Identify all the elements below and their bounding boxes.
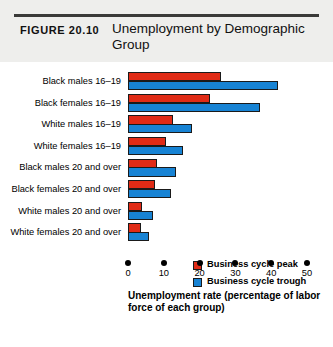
bar-row: Black females 20 and over (0, 179, 333, 201)
figure-header: FIGURE 20.10 Unemployment by Demographic… (0, 0, 333, 62)
bar-business-cycle-trough (128, 189, 171, 198)
category-label: Black females 20 and over (0, 179, 121, 201)
category-label: White males 16–19 (0, 114, 121, 136)
tick-dot-icon (268, 260, 274, 266)
category-label: Black males 16–19 (0, 71, 121, 93)
figure-card: FIGURE 20.10 Unemployment by Demographic… (0, 0, 333, 347)
bar-row: White females 16–19 (0, 136, 333, 158)
bar-business-cycle-peak (128, 223, 141, 232)
bar-business-cycle-peak (128, 115, 173, 124)
bar-business-cycle-peak (128, 202, 142, 211)
tick-dot-icon (197, 260, 203, 266)
bar-row: Black males 16–19 (0, 71, 333, 93)
bar-business-cycle-trough (128, 167, 176, 176)
category-label: Black females 16–19 (0, 93, 121, 115)
x-axis-tick-label: 0 (116, 268, 140, 278)
bar-row: White males 16–19 (0, 114, 333, 136)
tick-dot-icon (161, 260, 167, 266)
bar-business-cycle-peak (128, 159, 157, 168)
bar-business-cycle-trough (128, 103, 260, 112)
x-axis-caption: Unemployment rate (percentage of labor f… (128, 290, 328, 313)
tick-dot-icon (232, 260, 238, 266)
category-label: White females 16–19 (0, 136, 121, 158)
tick-dot-icon (125, 260, 131, 266)
bar-business-cycle-trough (128, 211, 153, 220)
bar-row: Black females 16–19 (0, 93, 333, 115)
bar-row: Black males 20 and over (0, 157, 333, 179)
figure-number: FIGURE 20.10 (20, 24, 99, 36)
x-axis-tick-label: 40 (259, 268, 283, 278)
header-divider (14, 14, 319, 17)
chart-plot-area: Black males 16–19Black females 16–19Whit… (0, 62, 333, 347)
bar-business-cycle-trough (128, 232, 149, 241)
category-label: Black males 20 and over (0, 157, 121, 179)
bar-business-cycle-trough (128, 146, 183, 155)
category-label: White females 20 and over (0, 222, 121, 244)
bar-business-cycle-peak (128, 72, 221, 81)
bar-business-cycle-trough (128, 81, 278, 90)
bar-business-cycle-trough (128, 124, 192, 133)
bar-business-cycle-peak (128, 180, 155, 189)
x-axis: 01020304050 (0, 260, 333, 290)
x-axis-tick-label: 10 (152, 268, 176, 278)
x-axis-tick-label: 50 (295, 268, 319, 278)
bar-row: White males 20 and over (0, 201, 333, 223)
x-axis-tick-label: 20 (188, 268, 212, 278)
bar-business-cycle-peak (128, 137, 166, 146)
x-axis-tick-label: 30 (223, 268, 247, 278)
bar-row: White females 20 and over (0, 222, 333, 244)
figure-title: Unemployment by Demographic Group (112, 21, 312, 52)
tick-dot-icon (304, 260, 310, 266)
bar-business-cycle-peak (128, 94, 210, 103)
category-label: White males 20 and over (0, 201, 121, 223)
